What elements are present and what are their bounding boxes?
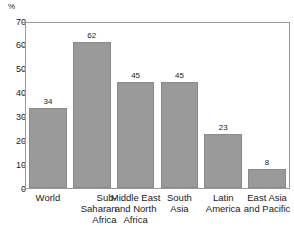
bar-value-label: 45	[153, 71, 207, 80]
x-axis-category-label: World	[23, 192, 73, 203]
x-axis-category-label: SouthAsia	[155, 192, 205, 214]
x-axis-category-label-line: Latin	[198, 192, 248, 203]
x-axis-category-label: LatinAmerica	[198, 192, 248, 214]
bar-slot: 34	[29, 23, 67, 188]
bar-chart: % 010203040506070 34624545238 WorldSub-S…	[0, 0, 294, 231]
x-axis-category-label-line: Asia	[155, 203, 205, 214]
x-axis-category-label-line: and Pacific	[242, 203, 292, 214]
x-axis-category-label-line: America	[198, 203, 248, 214]
x-axis-category-label: Middle Eastand NorthAfrica	[111, 192, 161, 225]
bar-value-label: 23	[196, 123, 250, 132]
bar-slot: 8	[248, 23, 286, 188]
y-axis-tick-mark	[21, 189, 25, 190]
x-axis-category-label-line: Middle East	[111, 192, 161, 203]
bar	[161, 82, 199, 188]
bar-slot: 62	[73, 23, 111, 188]
bar	[204, 134, 242, 188]
bar-value-label: 62	[65, 31, 119, 40]
x-axis-category-label-line: Africa	[111, 214, 161, 225]
bar-value-label: 34	[21, 97, 75, 106]
plot-area: 34624545238	[25, 22, 290, 189]
bar-slot: 45	[161, 23, 199, 188]
x-axis-category-label: East Asiaand Pacific	[242, 192, 292, 214]
y-axis-unit-label: %	[8, 2, 15, 12]
x-axis-category-label-line: and North	[111, 203, 161, 214]
x-axis-category-label-line: East Asia	[242, 192, 292, 203]
bar	[248, 169, 286, 188]
bar	[73, 42, 111, 188]
x-axis-category-label-line: South	[155, 192, 205, 203]
x-axis-category-label: Sub-SaharanAfrica	[67, 192, 117, 225]
bar	[29, 108, 67, 188]
bar	[117, 82, 155, 188]
x-axis-category-label-line: Sub-Saharan	[67, 192, 117, 214]
bar-value-label: 8	[240, 158, 294, 167]
bar-slot: 45	[117, 23, 155, 188]
bar-slot: 23	[204, 23, 242, 188]
x-axis-category-label-line: World	[23, 192, 73, 203]
x-axis-category-label-line: Africa	[67, 214, 117, 225]
